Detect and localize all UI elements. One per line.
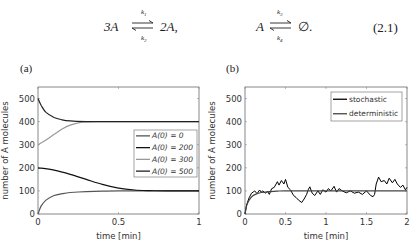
chart-b: 010020030040050000.511.52time [min]numbe…	[0, 0, 414, 251]
legend-entry-label: stochastic	[349, 95, 387, 104]
y-tick-label: 200	[226, 163, 242, 173]
y-tick-label: 100	[226, 186, 242, 196]
x-tick-label: 0	[242, 217, 247, 227]
x-axis-label: time [min]	[304, 231, 349, 241]
x-tick-label: 2	[404, 217, 409, 227]
y-tick-label: 300	[226, 140, 242, 150]
y-tick-label: 400	[226, 117, 242, 127]
y-axis-label: number of A molecules	[207, 101, 217, 200]
x-tick-label: 1	[323, 217, 328, 227]
y-tick-label: 500	[226, 94, 242, 104]
x-tick-label: 1.5	[360, 217, 374, 227]
x-tick-label: 0.5	[279, 217, 293, 227]
y-tick-label: 0	[237, 209, 242, 219]
legend: stochasticdeterministic	[331, 92, 402, 121]
legend-entry-label: deterministic	[349, 109, 398, 118]
series-line-stochastic	[245, 177, 407, 214]
